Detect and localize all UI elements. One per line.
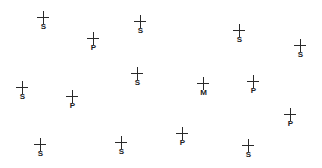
marker-label: P: [247, 86, 260, 95]
marker-label: M: [197, 88, 210, 97]
marker-label: S: [294, 50, 307, 59]
marker-diagram: S P S S S S P S M P P S: [0, 0, 322, 168]
marker-label: S: [115, 147, 128, 156]
marker-label: S: [34, 149, 47, 158]
marker-label: P: [176, 138, 189, 147]
marker-label: P: [87, 43, 100, 52]
marker-label: S: [16, 92, 29, 101]
marker-label: P: [284, 119, 297, 128]
marker-label: S: [233, 35, 246, 44]
marker-label: S: [131, 78, 144, 87]
marker-label: S: [242, 150, 255, 159]
marker-label: S: [134, 26, 147, 35]
marker-label: S: [37, 22, 50, 31]
marker-label: P: [66, 101, 79, 110]
